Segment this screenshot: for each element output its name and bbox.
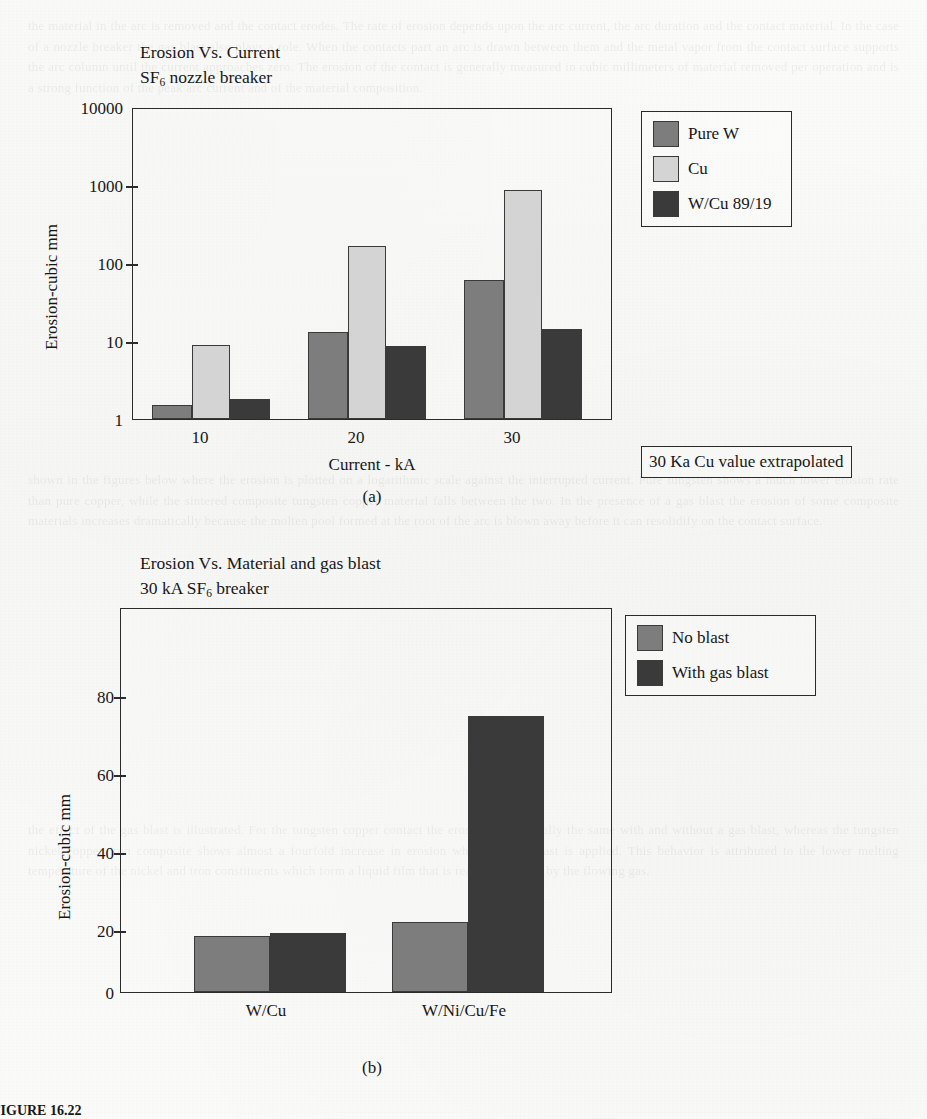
- panel-a-y-axis-label: Erosion-cubic mm: [42, 224, 62, 350]
- panel-a-x-axis-label: Current - kA: [272, 455, 472, 475]
- panel-b-title-line2-pre: 30 kA SF: [140, 578, 206, 598]
- legend-label-pure-w: Pure W: [688, 124, 739, 144]
- panel-a-ytick-1000: 1000: [45, 177, 123, 197]
- bar-pure-w-20kA: [308, 332, 348, 419]
- panel-a-letter: (a): [322, 487, 422, 507]
- panel-b-ytick-20: 20: [60, 922, 114, 942]
- legend-item-no-blast[interactable]: No blast: [637, 625, 804, 651]
- panel-b-ytick-60: 60: [60, 766, 114, 786]
- panel-a-xtick-30: 30: [462, 428, 562, 448]
- bar-wcu-30kA: [542, 329, 582, 419]
- panel-b-ytick-0: 0: [60, 984, 114, 1004]
- panel-a-plot-area: [132, 108, 612, 420]
- bar-pure-w-10kA: [152, 405, 192, 419]
- panel-a-extrapolation-note: 30 Ka Cu value extrapolated: [641, 446, 852, 478]
- panel-a-tick-10: [126, 342, 138, 344]
- legend-label-wcu: W/Cu 89/19: [688, 194, 772, 214]
- panel-a-title-line2: SF6 nozzle breaker: [140, 65, 272, 95]
- panel-b-tick-40: [114, 853, 126, 855]
- panel-a-tick-1000: [126, 186, 138, 188]
- bar-with-gas-blast-wcu: [270, 933, 346, 992]
- panel-b-tick-20: [114, 931, 126, 933]
- bar-cu-10kA: [192, 345, 230, 419]
- panel-a-title-line1: Erosion Vs. Current: [140, 40, 280, 65]
- panel-b-title-line1: Erosion Vs. Material and gas blast: [140, 551, 381, 576]
- bar-pure-w-30kA: [464, 280, 504, 419]
- panel-b-legend: No blast With gas blast: [625, 615, 816, 696]
- panel-b-letter: (b): [322, 1058, 422, 1078]
- legend-label-with-gas-blast: With gas blast: [672, 663, 769, 683]
- panel-b-ytick-40: 40: [60, 844, 114, 864]
- panel-a-ytick-10000: 10000: [45, 99, 123, 119]
- panel-b-plot-area: [120, 608, 612, 993]
- panel-a-ytick-1: 1: [45, 411, 123, 431]
- bar-cu-30kA: [504, 190, 542, 419]
- bar-wcu-20kA: [386, 346, 426, 419]
- panel-a-title-line2-pre: SF: [140, 67, 159, 87]
- legend-item-with-gas-blast[interactable]: With gas blast: [637, 660, 804, 686]
- panel-a-ytick-100: 100: [45, 255, 123, 275]
- bar-cu-20kA: [348, 246, 386, 419]
- panel-b-ytick-80: 80: [60, 688, 114, 708]
- panel-b-title-line2-post: breaker: [212, 578, 269, 598]
- legend-item-pure-w[interactable]: Pure W: [653, 121, 780, 147]
- bar-wcu-10kA: [230, 399, 270, 419]
- legend-label-no-blast: No blast: [672, 628, 729, 648]
- legend-swatch-cu: [653, 156, 679, 182]
- panel-a-title-line2-post: nozzle breaker: [165, 67, 272, 87]
- panel-a-xtick-20: 20: [306, 428, 406, 448]
- bar-with-gas-blast-wnicufe: [468, 716, 544, 992]
- panel-a-tick-100: [126, 264, 138, 266]
- legend-swatch-pure-w: [653, 121, 679, 147]
- panel-b-xtick-wnicufe: W/Ni/Cu/Fe: [404, 1001, 524, 1021]
- panel-b-tick-60: [114, 775, 126, 777]
- legend-label-cu: Cu: [688, 159, 708, 179]
- panel-b-tick-80: [114, 697, 126, 699]
- legend-swatch-no-blast: [637, 625, 663, 651]
- legend-swatch-wcu: [653, 191, 679, 217]
- legend-item-cu[interactable]: Cu: [653, 156, 780, 182]
- figure-caption: FIGURE 16.22: [0, 1103, 81, 1119]
- bar-no-blast-wcu: [194, 936, 270, 992]
- legend-item-wcu[interactable]: W/Cu 89/19: [653, 191, 780, 217]
- panel-a-xtick-10: 10: [150, 428, 250, 448]
- legend-swatch-with-gas-blast: [637, 660, 663, 686]
- panel-a-ytick-10: 10: [45, 333, 123, 353]
- figure-16-22: Erosion Vs. Current SF6 nozzle breaker E…: [0, 0, 927, 1119]
- panel-b-xtick-wcu: W/Cu: [206, 1001, 326, 1021]
- panel-b-title-line2: 30 kA SF6 breaker: [140, 576, 269, 606]
- bar-no-blast-wnicufe: [392, 922, 468, 992]
- panel-a-legend: Pure W Cu W/Cu 89/19: [641, 111, 792, 227]
